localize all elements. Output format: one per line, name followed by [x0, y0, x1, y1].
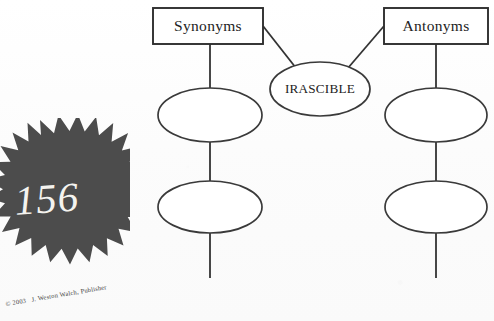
- synonym-blank-2-ellipse[interactable]: [158, 181, 262, 233]
- worksheet-page: 156 © 2003 J. Weston Walch, Publisher Sy…: [0, 0, 494, 321]
- synonyms-label: Synonyms: [174, 17, 242, 34]
- copyright-text: © 2003 J. Weston Walch, Publisher: [5, 283, 108, 307]
- badge-number-text: 156: [13, 173, 81, 223]
- synonyms-node[interactable]: Synonyms: [153, 8, 263, 44]
- antonym-blank-1-ellipse[interactable]: [385, 88, 487, 142]
- center-word-label: IRASCIBLE: [285, 81, 355, 96]
- connector-antonyms-to-center: [348, 26, 384, 68]
- page-number-starburst: 156: [0, 114, 152, 265]
- synonym-blank-1[interactable]: [158, 88, 262, 142]
- antonym-blank-2[interactable]: [385, 181, 487, 233]
- antonyms-label: Antonyms: [403, 17, 470, 34]
- center-word-node[interactable]: IRASCIBLE: [270, 62, 370, 116]
- word-map-diagram: 156 © 2003 J. Weston Walch, Publisher Sy…: [0, 0, 494, 321]
- antonyms-node[interactable]: Antonyms: [384, 8, 488, 44]
- synonym-blank-1-ellipse[interactable]: [158, 88, 262, 142]
- connector-synonyms-to-center: [263, 26, 296, 68]
- antonym-blank-1[interactable]: [385, 88, 487, 142]
- copyright-notice: © 2003 J. Weston Walch, Publisher: [5, 283, 108, 307]
- synonym-blank-2[interactable]: [158, 181, 262, 233]
- antonym-blank-2-ellipse[interactable]: [385, 181, 487, 233]
